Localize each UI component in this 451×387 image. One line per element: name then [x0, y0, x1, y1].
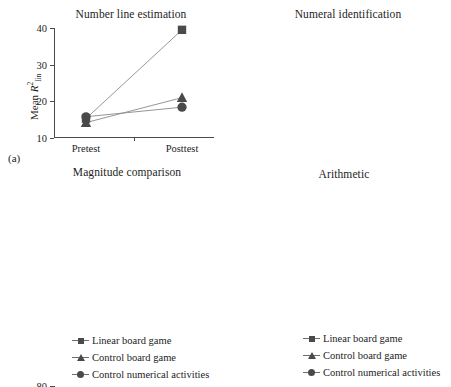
legend-label: Linear board game [323, 333, 402, 344]
panel-a-plot-area: 10 20 30 40 Pretest Posttest [54, 28, 214, 138]
panel-a-series [54, 28, 214, 138]
panel-a-title: Number line estimation [0, 8, 244, 20]
legend-item-control-board-game: Control board game [72, 349, 209, 366]
legend-label: Linear board game [92, 335, 171, 346]
panel-c-title: Numeral identification [225, 8, 451, 20]
square-marker-icon [72, 338, 89, 344]
legend-item-control-board-game: Control board game [303, 347, 440, 364]
circle-marker-icon [72, 371, 89, 378]
panel-a-xtick-pretest: Pretest [72, 143, 101, 154]
panel-a-ytick-1: 20 [37, 96, 48, 107]
legend-item-linear-board-game: Linear board game [72, 332, 209, 349]
legend-left: Linear board game Control board game Con… [72, 332, 209, 383]
panel-a-xtick-posttest: Posttest [166, 143, 199, 154]
legend-item-linear-board-game: Linear board game [303, 330, 440, 347]
panel-a-ytick-2: 30 [37, 59, 48, 70]
panel-a-ytick-3: 40 [37, 23, 48, 34]
circle-marker-icon [303, 369, 320, 376]
panel-d-title: Arithmetic [225, 168, 451, 180]
legend-item-control-numerical-activities: Control numerical activities [72, 366, 209, 383]
panel-a-number-line-estimation: Number line estimation Mean R2lin 10 20 … [0, 0, 226, 180]
panel-b-title: Magnitude comparison [0, 166, 240, 178]
panel-a-ytick-0: 10 [37, 133, 48, 144]
triangle-marker-icon [72, 354, 89, 361]
legend-label: Control board game [323, 350, 407, 361]
panel-a-letter: (a) [8, 152, 20, 164]
square-marker-icon [303, 336, 320, 342]
figure-panels: Number line estimation Mean R2lin 10 20 … [0, 0, 451, 387]
legend-item-control-numerical-activities: Control numerical activities [303, 364, 440, 381]
legend-label: Control numerical activities [323, 367, 440, 378]
legend-right: Linear board game Control board game Con… [303, 330, 440, 381]
legend-label: Control numerical activities [92, 369, 209, 380]
panel-c-numeral-identification: Numeral identification # Numberals ident… [225, 0, 451, 180]
legend-label: Control board game [92, 352, 176, 363]
triangle-marker-icon [303, 352, 320, 359]
panel-b-ytick-3: 80 [37, 381, 48, 387]
